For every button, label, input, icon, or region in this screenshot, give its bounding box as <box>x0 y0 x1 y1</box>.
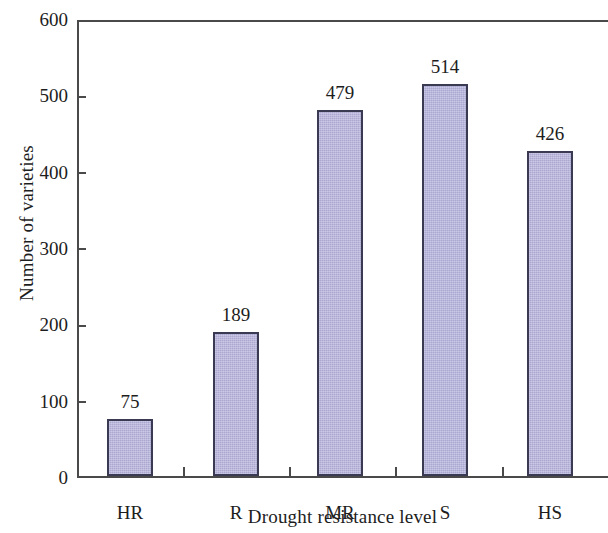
x-axis-tick <box>395 467 397 476</box>
y-axis-tick <box>77 20 86 22</box>
x-category-label-hr: HR <box>77 502 183 524</box>
x-axis-tick <box>289 467 291 476</box>
bar-value-label: 426 <box>497 123 603 145</box>
bar-hr <box>107 419 153 476</box>
bar-value-label: 189 <box>183 304 289 326</box>
bar-value-label: 479 <box>287 82 393 104</box>
y-axis-tick <box>77 172 86 174</box>
y-tick-label: 600 <box>8 9 68 31</box>
y-tick-label: 200 <box>8 314 68 336</box>
bar-r <box>213 332 259 476</box>
y-tick-label: 300 <box>8 238 68 260</box>
y-axis-title: Number of varieties <box>16 98 38 348</box>
x-category-label-mr: MR <box>287 502 393 524</box>
bar-value-label: 75 <box>77 391 183 413</box>
x-axis-line <box>77 476 608 478</box>
bar-hs <box>527 151 573 476</box>
bar-mr <box>317 110 363 476</box>
bar-chart: Number of varieties Drought resistance l… <box>0 0 608 533</box>
y-tick-label: 400 <box>8 162 68 184</box>
y-tick-label: 100 <box>8 391 68 413</box>
y-axis-tick <box>77 96 86 98</box>
x-axis-tick <box>183 467 185 476</box>
y-axis-tick <box>77 325 86 327</box>
bar-value-label: 514 <box>392 56 498 78</box>
plot-area: 75 189 479 514 426 HR R MR S HS <box>77 20 608 478</box>
y-axis-tick <box>77 248 86 250</box>
x-axis-tick <box>502 467 504 476</box>
y-axis-tick <box>77 476 86 478</box>
y-tick-label: 0 <box>8 467 68 489</box>
y-tick-label: 500 <box>8 85 68 107</box>
plot-frame-top <box>77 20 608 22</box>
x-category-label-r: R <box>183 502 289 524</box>
x-category-label-hs: HS <box>497 502 603 524</box>
x-category-label-s: S <box>392 502 498 524</box>
bar-s <box>422 84 468 476</box>
